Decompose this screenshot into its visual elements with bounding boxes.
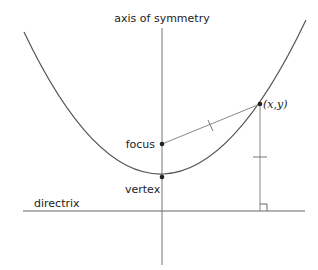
axis-label: axis of symmetry bbox=[114, 12, 210, 25]
curve-point bbox=[258, 102, 263, 107]
directrix-label: directrix bbox=[34, 197, 80, 210]
focus-label: focus bbox=[126, 138, 156, 151]
vertex-label: vertex bbox=[125, 183, 161, 196]
focus-to-point-segment bbox=[162, 104, 260, 144]
parabola-diagram: axis of symmetry focus vertex directrix … bbox=[0, 0, 318, 270]
right-angle-marker bbox=[260, 204, 267, 211]
vertex-point bbox=[160, 175, 165, 180]
focus-point bbox=[160, 142, 165, 147]
point-label: (x,y) bbox=[263, 98, 288, 111]
equal-tick-mark bbox=[208, 120, 213, 131]
